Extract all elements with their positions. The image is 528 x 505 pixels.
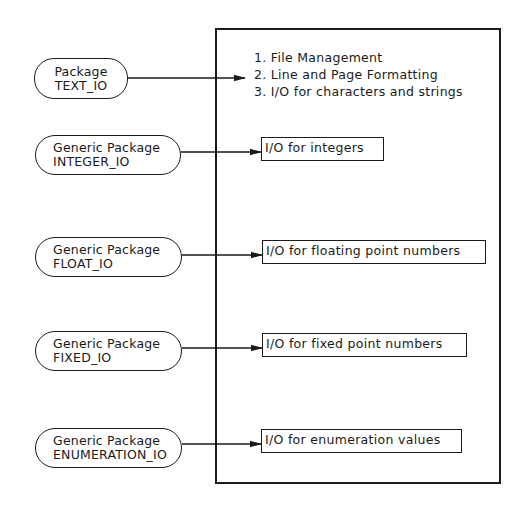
package-fixed-io: Generic Package FIXED_IO [35, 331, 182, 371]
package-kind-label: Generic Package [53, 434, 181, 448]
package-kind-label: Generic Package [53, 337, 181, 351]
output-enumeration: I/O for enumeration values [261, 429, 462, 453]
package-float-io: Generic Package FLOAT_IO [35, 237, 182, 277]
package-integer-io: Generic Package INTEGER_IO [35, 135, 181, 175]
output-floating-point: I/O for floating point numbers [262, 240, 486, 264]
feature-char-string-io: 3. I/O for characters and strings [254, 83, 463, 100]
package-enumeration-io: Generic Package ENUMERATION_IO [35, 428, 182, 468]
package-name-label: INTEGER_IO [53, 155, 180, 169]
package-name-label: FIXED_IO [53, 351, 181, 365]
feature-line-page-formatting: 2. Line and Page Formatting [254, 66, 463, 83]
package-text-io: Package TEXT_IO [34, 58, 128, 99]
package-kind-label: Generic Package [53, 141, 180, 155]
package-name-label: TEXT_IO [55, 79, 108, 93]
output-fixed-point: I/O for fixed point numbers [262, 333, 467, 357]
ada-text-io-diagram: Package TEXT_IO Generic Package INTEGER_… [0, 0, 528, 505]
package-kind-label: Package [54, 65, 107, 79]
package-name-label: ENUMERATION_IO [53, 448, 181, 462]
feature-file-management: 1. File Management [254, 49, 463, 66]
package-kind-label: Generic Package [53, 243, 181, 257]
package-name-label: FLOAT_IO [53, 257, 181, 271]
text-io-feature-list: 1. File Management 2. Line and Page Form… [254, 49, 463, 100]
output-integers: I/O for integers [261, 137, 384, 161]
